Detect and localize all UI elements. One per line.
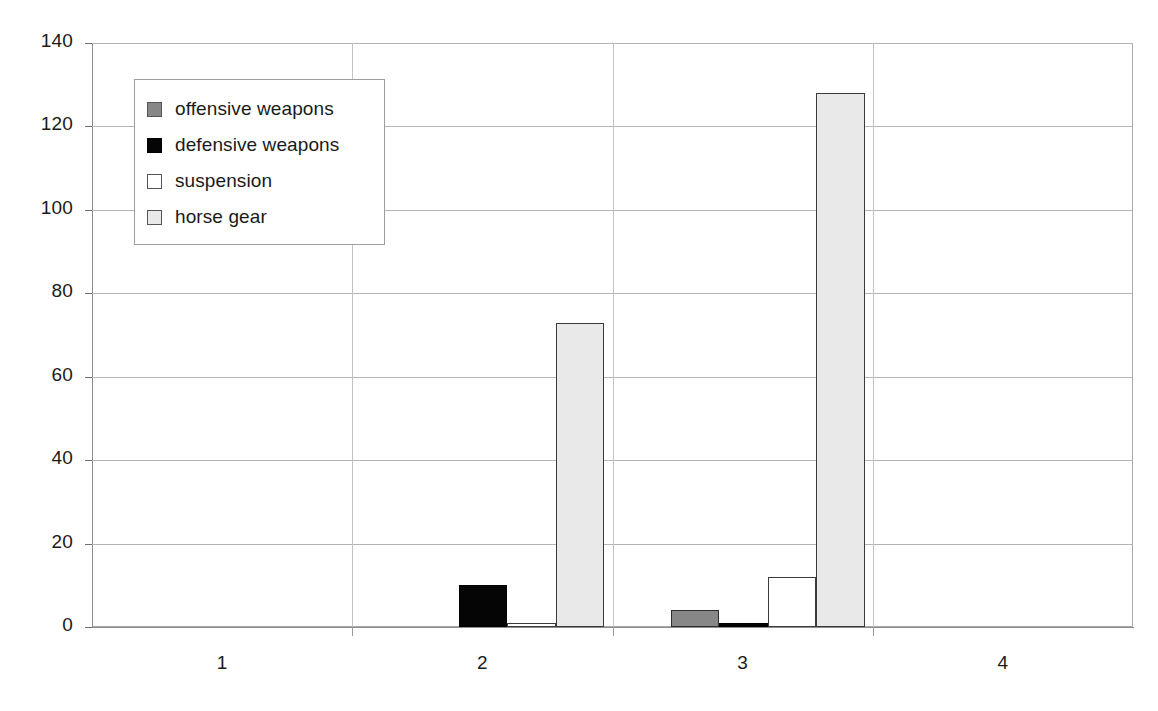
legend-swatch-icon-horse-gear — [147, 210, 162, 225]
bar-horse-gear-cat-2 — [556, 323, 605, 628]
legend-swatch-icon-defensive-weapons — [147, 138, 162, 153]
y-axis-tick-mark — [85, 544, 92, 545]
x-axis-tick-mark — [352, 628, 353, 636]
y-axis-tick-mark — [85, 43, 92, 44]
y-axis-tick-mark — [85, 627, 92, 628]
legend-item-horse-gear[interactable]: horse gear — [147, 199, 384, 235]
bar-offensive-weapons-cat-3 — [671, 610, 720, 627]
y-axis-tick-label: 80 — [0, 280, 73, 302]
legend-item-offensive-weapons[interactable]: offensive weapons — [147, 91, 384, 127]
y-axis-tick-label: 60 — [0, 364, 73, 386]
x-axis-tick-label: 1 — [92, 652, 352, 674]
y-axis-tick-label: 140 — [0, 30, 73, 52]
bar-suspension-cat-2 — [507, 623, 556, 627]
legend-label-suspension: suspension — [175, 170, 272, 192]
legend-swatch-icon-suspension — [147, 174, 162, 189]
legend-swatch-icon-offensive-weapons — [147, 102, 162, 117]
y-axis-tick-label: 120 — [0, 113, 73, 135]
legend-item-defensive-weapons[interactable]: defensive weapons — [147, 127, 384, 163]
y-axis-tick-label: 100 — [0, 197, 73, 219]
legend-label-horse-gear: horse gear — [175, 206, 267, 228]
bar-defensive-weapons-cat-2 — [459, 585, 508, 627]
x-axis-tick-mark — [613, 628, 614, 636]
legend-label-defensive-weapons: defensive weapons — [175, 134, 339, 156]
y-axis-tick-mark — [85, 210, 92, 211]
y-axis-tick-label: 20 — [0, 531, 73, 553]
bar-chart: 020406080100120140 1234 offensive weapon… — [0, 0, 1158, 711]
y-axis-tick-mark — [85, 377, 92, 378]
y-axis-tick-mark — [85, 293, 92, 294]
y-axis-tick-mark — [85, 460, 92, 461]
legend-label-offensive-weapons: offensive weapons — [175, 98, 334, 120]
legend-item-suspension[interactable]: suspension — [147, 163, 384, 199]
y-axis-tick-mark — [85, 126, 92, 127]
bar-suspension-cat-3 — [768, 577, 817, 627]
bar-defensive-weapons-cat-3 — [719, 623, 768, 627]
x-axis-tick-mark — [873, 628, 874, 636]
x-axis-tick-label: 3 — [613, 652, 873, 674]
y-axis-tick-label: 40 — [0, 447, 73, 469]
bar-horse-gear-cat-3 — [816, 93, 865, 627]
x-axis-tick-label: 2 — [352, 652, 612, 674]
chart-legend: offensive weapons defensive weapons susp… — [134, 79, 385, 245]
x-axis-tick-label: 4 — [873, 652, 1133, 674]
y-axis-tick-label: 0 — [0, 614, 73, 636]
